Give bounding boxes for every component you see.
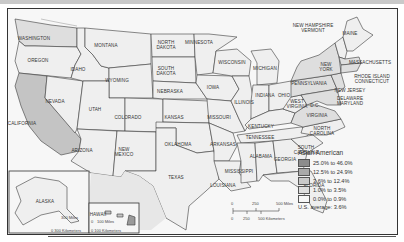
- hawaii-scale-miles-zero: 0: [91, 219, 93, 224]
- state-label-new-york: NEW YORK: [319, 62, 332, 72]
- legend-item: 25.0% to 46.0%: [298, 158, 396, 167]
- legend-swatch: [298, 159, 310, 167]
- state-label-nevada: NEVADA: [45, 99, 64, 104]
- legend-label: 25.0% to 46.0%: [313, 160, 353, 166]
- scale-miles-0: 0: [231, 201, 233, 206]
- hawaii-scale-miles: 100 Miles: [97, 219, 114, 224]
- state-label-new-jersey: NEW JERSEY: [335, 88, 366, 93]
- legend-label: 12.5% to 24.9%: [313, 169, 353, 175]
- state-label-rhode-island-connecticut: RHODE ISLAND CONNECTICUT: [354, 74, 390, 84]
- state-label-alaska: ALASKA: [36, 199, 54, 204]
- state-label-maine: MAINE: [342, 31, 357, 36]
- state-label-tennessee: TENNESSEE: [246, 135, 275, 140]
- hawaii-scale-km: 0 100 Kilometers: [91, 228, 121, 233]
- legend-item: 0.0% to 0.9%: [298, 194, 396, 203]
- state-label-hawaii: HAWAII: [90, 212, 107, 217]
- scale-km-0: 0: [231, 216, 233, 221]
- state-label-georgia: GEORGIA: [274, 157, 296, 162]
- state-label-virginia: VIRGINIA: [307, 113, 328, 118]
- state-label-mississippi: MISSISSIPPI: [225, 169, 253, 174]
- state-label-massachusetts: MASSACHUSETTS: [349, 60, 391, 65]
- legend-us-average: U.S. average: 3.6%: [298, 204, 396, 210]
- state-label-wisconsin: WISCONSIN: [218, 60, 245, 65]
- state-label-delaware-maryland: DELAWARE MARYLAND: [337, 96, 363, 106]
- legend-item: 12.5% to 24.9%: [298, 167, 396, 176]
- state-hawaii-maui: [117, 214, 123, 217]
- state-label-michigan: MICHIGAN: [253, 66, 277, 71]
- state-label-oklahoma: OKLAHOMA: [165, 142, 192, 147]
- legend-swatch: [298, 186, 310, 194]
- alaska-scale-miles: 300 Miles: [61, 215, 78, 220]
- legend-item: 1.0% to 3.5%: [298, 185, 396, 194]
- bottom-rule: [48, 236, 396, 237]
- legend-label: 1.0% to 3.5%: [313, 187, 346, 193]
- state-label-north-carolina: NORTH CAROLINA: [310, 126, 334, 136]
- state-label-kentucky: KENTUCKY: [248, 124, 274, 129]
- state-label-louisiana: LOUISIANA: [210, 183, 235, 188]
- state-label-texas: TEXAS: [168, 175, 184, 180]
- state-label-montana: MONTANA: [94, 43, 117, 48]
- legend-label: 3.6% to 12.4%: [313, 178, 349, 184]
- state-label-ohio: OHIO: [278, 93, 290, 98]
- scale-km-500: 500 Kilometers: [258, 216, 285, 221]
- state-label-dc: D.C.: [310, 103, 320, 108]
- scale-km-250: 250: [243, 216, 250, 221]
- state-label-utah: UTAH: [89, 107, 102, 112]
- legend-title: Asian American: [298, 149, 396, 156]
- state-label-wyoming: WYOMING: [105, 78, 129, 83]
- scale-miles-250: 250: [252, 201, 259, 206]
- legend-swatch: [298, 177, 310, 185]
- state-label-pennsylvania: PENNSYLVANIA: [291, 81, 327, 86]
- state-label-south-dakota: SOUTH DAKOTA: [156, 66, 175, 76]
- state-label-indiana: INDIANA: [255, 93, 274, 98]
- state-label-idaho: IDAHO: [70, 67, 85, 72]
- state-label-new-mexico: NEW MEXICO: [115, 147, 134, 157]
- legend-item: 3.6% to 12.4%: [298, 176, 396, 185]
- scale-miles-500: 500 Miles: [276, 201, 293, 206]
- legend-label: 0.0% to 0.9%: [313, 196, 346, 202]
- alaska-scale-km: 0 300 Kilometers: [51, 228, 81, 233]
- state-label-arizona: ARIZONA: [71, 148, 92, 153]
- state-label-illinois: ILLINOIS: [234, 100, 254, 105]
- state-label-new-hampshire-vermont: NEW HAMPSHIRE VERMONT: [293, 23, 334, 33]
- legend-swatch: [298, 195, 310, 203]
- map-frame: WASHINGTONOREGONCALIFORNIANEVADAIDAHOMON…: [7, 8, 398, 235]
- legend-swatch: [298, 168, 310, 176]
- page-top-bar: [0, 0, 404, 4]
- state-label-alabama: ALABAMA: [250, 154, 272, 159]
- state-label-west-virginia: WEST VIRGINIA: [287, 99, 308, 109]
- state-label-california: CALIFORNIA: [8, 121, 37, 126]
- state-label-arkansas: ARKANSAS: [210, 142, 236, 147]
- state-label-minnesota: MINNESOTA: [185, 40, 213, 45]
- state-label-missouri: MISSOURI: [207, 115, 231, 120]
- state-label-washington: WASHINGTON: [18, 36, 50, 41]
- state-label-nebraska: NEBRASKA: [157, 89, 183, 94]
- legend: Asian American 25.0% to 46.0% 12.5% to 2…: [298, 149, 396, 210]
- state-label-north-dakota: NORTH DAKOTA: [156, 40, 175, 50]
- state-label-iowa: IOWA: [207, 85, 219, 90]
- state-label-kansas: KANSAS: [164, 115, 183, 120]
- state-label-oregon: OREGON: [27, 58, 48, 63]
- state-label-colorado: COLORADO: [114, 115, 141, 120]
